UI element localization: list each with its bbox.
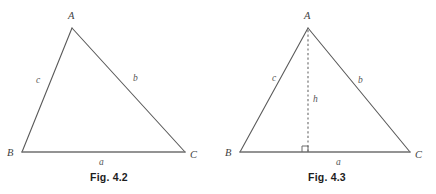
vertex-label-a: A — [68, 11, 74, 22]
side-label-b: b — [133, 74, 138, 84]
side-label-c: c — [272, 74, 276, 84]
side-label-c: c — [36, 76, 40, 86]
figure-caption: Fig. 4.3 — [218, 170, 436, 184]
side-label-a: a — [99, 158, 104, 168]
vertex-label-c: C — [415, 150, 422, 161]
vertex-label-a: A — [304, 11, 310, 22]
side-b-line — [308, 28, 410, 152]
vertex-label-b: B — [7, 148, 13, 159]
vertex-label-b: B — [225, 148, 231, 159]
side-label-b: b — [358, 76, 363, 86]
altitude-label-h: h — [313, 95, 318, 105]
side-c-line — [240, 28, 308, 152]
figure-fig-4-3: A B C c b a h Fig. 4.3 — [218, 0, 436, 194]
side-label-a: a — [336, 158, 341, 168]
fig-4-3-drawing — [218, 0, 436, 170]
vertex-label-c: C — [190, 150, 197, 161]
right-angle-marker-icon — [302, 146, 308, 152]
fig-4-2-drawing — [0, 0, 218, 170]
figure-fig-4-2: A B C c b a Fig. 4.2 — [0, 0, 218, 194]
figure-page: A B C c b a Fig. 4.2 A B C c b a h Fig. … — [0, 0, 436, 194]
figure-caption: Fig. 4.2 — [0, 170, 218, 184]
side-c-line — [22, 28, 72, 152]
side-b-line — [72, 28, 185, 152]
